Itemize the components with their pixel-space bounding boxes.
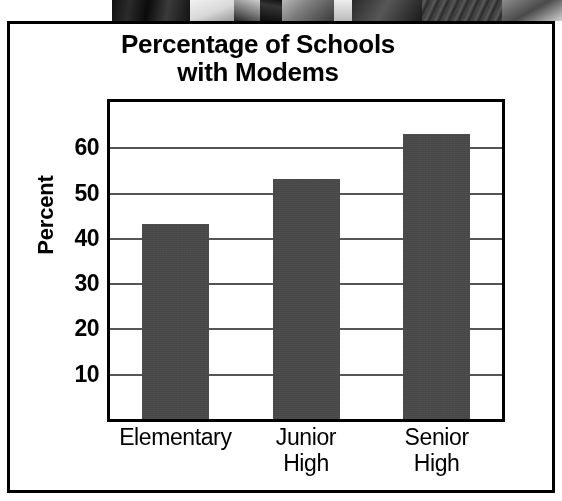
y-axis-tick-label: 50 <box>74 179 99 206</box>
y-axis-tick-label: 30 <box>74 270 99 297</box>
x-axis-category-label: Senior High <box>359 425 514 477</box>
chart-figure: Percentage of Schools with Modems Percen… <box>0 0 562 501</box>
plot-area <box>107 99 505 422</box>
bar-series <box>110 102 502 419</box>
bar <box>142 224 209 419</box>
y-axis-tick-label: 60 <box>74 134 99 161</box>
chart-card: Percentage of Schools with Modems Percen… <box>7 21 555 493</box>
x-axis-category-labels: ElementaryJunior HighSenior High <box>107 425 505 495</box>
y-axis-tick-label: 40 <box>74 224 99 251</box>
y-axis-tick-label: 20 <box>74 315 99 342</box>
y-axis-tick-label: 10 <box>74 360 99 387</box>
bar <box>273 179 340 419</box>
photo-grain-overlay <box>112 0 562 21</box>
y-axis-tick-labels: 102030405060 <box>43 99 105 422</box>
bar <box>403 134 470 419</box>
chart-title: Percentage of Schools with Modems <box>10 30 506 86</box>
decorative-photo-strip <box>112 0 562 21</box>
